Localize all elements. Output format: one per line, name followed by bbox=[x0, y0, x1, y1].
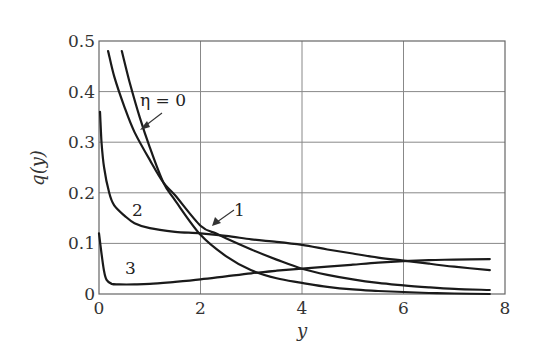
y-tick-labels: 00.10.20.30.40.5 bbox=[68, 31, 95, 304]
y-tick-label: 0.2 bbox=[68, 183, 95, 203]
x-tick-label: 2 bbox=[195, 298, 206, 318]
y-axis-label: q(y) bbox=[27, 150, 48, 186]
chart: 02468 00.10.20.30.40.5 η = 0 1 2 3 y q(y… bbox=[0, 0, 538, 354]
x-tick-labels: 02468 bbox=[94, 298, 511, 318]
x-tick-label: 4 bbox=[297, 298, 308, 318]
y-tick-label: 0.4 bbox=[68, 82, 95, 102]
curve-2 bbox=[100, 112, 490, 270]
curves bbox=[99, 51, 490, 294]
curve-1-arrowhead-icon bbox=[212, 217, 221, 226]
curve-3 bbox=[99, 233, 490, 284]
x-tick-label: 8 bbox=[500, 298, 511, 318]
curve-eta-0 bbox=[122, 51, 490, 294]
y-tick-label: 0.5 bbox=[68, 31, 95, 51]
x-tick-label: 0 bbox=[94, 298, 105, 318]
eta-zero-label: η = 0 bbox=[140, 90, 186, 110]
curve-3-label: 3 bbox=[125, 258, 136, 278]
y-tick-label: 0.3 bbox=[68, 132, 95, 152]
x-tick-label: 6 bbox=[398, 298, 409, 318]
curve-1-label: 1 bbox=[234, 200, 245, 220]
curve-1-arrow bbox=[217, 210, 234, 222]
curve-1 bbox=[108, 51, 490, 290]
y-tick-label: 0 bbox=[84, 284, 95, 304]
grid-lines bbox=[99, 41, 505, 294]
y-tick-label: 0.1 bbox=[68, 233, 95, 253]
curve-2-label: 2 bbox=[132, 200, 143, 220]
x-axis-label: y bbox=[296, 320, 308, 341]
